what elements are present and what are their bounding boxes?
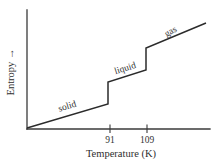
x-tick-label-91: 91 (105, 135, 115, 145)
entropy-temperature-figure: solid liquid gas 91 109 Temperature (K) … (0, 0, 223, 163)
y-axis-title: Entropy → (5, 49, 16, 96)
x-axis-title: Temperature (K) (86, 148, 157, 160)
x-tick-label-109: 109 (140, 135, 155, 145)
phase-label-gas: gas (163, 24, 179, 39)
phase-label-solid: solid (57, 99, 78, 114)
entropy-temperature-chart: solid liquid gas 91 109 Temperature (K) … (0, 0, 223, 163)
